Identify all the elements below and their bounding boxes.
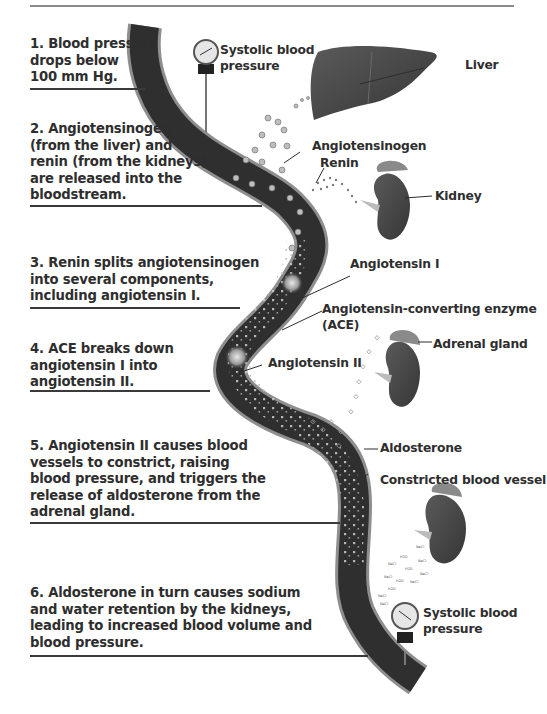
step-line: drops below [30,53,158,70]
step-line: 2. Angiotensinogen [30,121,207,138]
label-line: pressure [423,621,517,637]
step-line: 4. ACE breaks down [30,341,174,358]
step-1-text: 1. Blood pressure drops below 100 mm Hg. [30,36,158,86]
svg-text:NaCl: NaCl [378,594,386,598]
label-line: Systolic blood [220,42,314,58]
step-line: (from the liver) and [30,138,207,155]
lower-kidney-icon [414,483,466,564]
svg-text:H2O: H2O [400,555,408,559]
step-1-rule [30,88,145,90]
label-systolic-bottom: Systolic blood pressure [423,605,517,637]
renin-particles [312,177,357,203]
step-line: vessels to constrict, raising [30,455,266,472]
step-line: release of aldosterone from the [30,488,266,505]
step-5-rule [30,522,340,524]
label-ace: Angiotensin-converting enzyme (ACE) [322,301,537,333]
step-line: leading to increased blood volume and [30,618,312,635]
step-line: and water retention by the kidneys, [30,602,312,619]
svg-text:NaCl: NaCl [420,572,428,576]
step-line: are released into the [30,171,207,188]
svg-text:H2O: H2O [405,567,413,571]
label-angiotensin-1: Angiotensin I [350,256,439,272]
step-line: including angiotensin I. [30,288,259,305]
step-line: bloodstream. [30,187,207,204]
svg-text:NaCl: NaCl [416,545,424,549]
angiotensin-2-glow [225,345,249,369]
label-constricted-vessel: Constricted blood vessel [380,472,546,488]
step-line: blood pressure, and triggers the [30,471,266,488]
step-line: angiotensin I into [30,358,174,375]
svg-text:H2O: H2O [396,579,404,583]
step-line: blood pressure. [30,635,312,652]
label-renin: Renin [320,155,359,171]
step-6-text: 6. Aldosterone in turn causes sodium and… [30,585,312,651]
step-4-text: 4. ACE breaks down angiotensin I into an… [30,341,174,391]
label-line: pressure [220,58,314,74]
step-line: into several components, [30,272,259,289]
step-line: 6. Aldosterone in turn causes sodium [30,585,312,602]
label-line: Systolic blood [423,605,517,621]
step-line: 1. Blood pressure [30,36,158,53]
svg-text:NaCl: NaCl [384,575,392,579]
step-6-rule [30,655,368,657]
liver-icon [311,46,437,120]
label-angiotensinogen: Angiotensinogen [312,138,426,154]
svg-text:NaCl: NaCl [410,580,418,584]
label-aldosterone: Aldosterone [380,440,462,456]
step-5-text: 5. Angiotensin II causes blood vessels t… [30,438,266,521]
step-line: 5. Angiotensin II causes blood [30,438,266,455]
kidney-icon [360,161,410,240]
label-line: (ACE) [322,317,537,333]
label-liver: Liver [465,57,498,73]
adrenal-kidney-icon [374,330,420,407]
step-line: adrenal gland. [30,504,266,521]
svg-text:NaCl: NaCl [388,562,396,566]
step-3-text: 3. Renin splits angiotensinogen into sev… [30,255,259,305]
svg-text:H2O: H2O [388,587,396,591]
step-2-rule [30,205,262,207]
step-4-rule [30,390,210,392]
label-angiotensin-2: Angiotensin II [268,355,362,371]
step-line: renin (from the kidneys) [30,154,207,171]
label-line: Angiotensin-converting enzyme [322,301,537,317]
svg-text:NaCl: NaCl [418,559,426,563]
step-line: 100 mm Hg. [30,69,158,86]
step-line: 3. Renin splits angiotensinogen [30,255,259,272]
step-line: angiotensin II. [30,374,174,391]
svg-text:NaCl: NaCl [380,602,388,606]
sodium-water-molecules: NaClH2ONaCl NaClH2ONaCl NaClH2ONaCl H2ON… [378,545,428,606]
label-systolic-top: Systolic blood pressure [220,42,314,74]
step-2-text: 2. Angiotensinogen (from the liver) and … [30,121,207,204]
step-3-rule [30,307,240,309]
pressure-gauge-top-icon [194,40,218,132]
angiotensin-1-glow [281,272,303,294]
label-adrenal-gland: Adrenal gland [433,336,528,352]
label-kidney: Kidney [435,188,481,204]
